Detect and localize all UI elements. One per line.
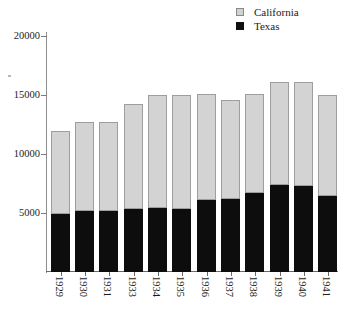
- bar-group[interactable]: [245, 36, 264, 272]
- bar-segment-california[interactable]: [124, 104, 143, 209]
- x-axis-tick: [304, 272, 305, 276]
- y-axis-tick-label: 20000: [0, 30, 40, 41]
- stacked-bar-chart: California Texas 5000100001500020000 192…: [0, 0, 360, 312]
- x-axis-tick: [182, 272, 183, 276]
- x-axis-tick: [207, 272, 208, 276]
- bar-segment-california[interactable]: [245, 94, 264, 193]
- legend-item-texas: Texas: [236, 19, 356, 32]
- bar-segment-california[interactable]: [318, 95, 337, 196]
- x-axis-tick: [85, 272, 86, 276]
- x-axis-tick-label: 1940: [297, 276, 308, 312]
- bar-segment-california[interactable]: [51, 131, 70, 214]
- bar-group[interactable]: [75, 36, 94, 272]
- bar-segment-texas[interactable]: [172, 209, 191, 272]
- x-axis-tick: [280, 272, 281, 276]
- bar-group[interactable]: [172, 36, 191, 272]
- x-axis-tick: [231, 272, 232, 276]
- bar-group[interactable]: [51, 36, 70, 272]
- bar-segment-california[interactable]: [270, 82, 289, 185]
- bar-segment-california[interactable]: [197, 94, 216, 200]
- x-axis-tick-label: 1936: [200, 276, 211, 312]
- bar-group[interactable]: [318, 36, 337, 272]
- bar-segment-texas[interactable]: [197, 200, 216, 272]
- bar-segment-texas[interactable]: [318, 196, 337, 272]
- california-swatch-icon: [236, 8, 244, 16]
- bar-segment-california[interactable]: [99, 122, 118, 211]
- legend-label-texas: Texas: [254, 20, 280, 32]
- x-axis-tick-label: 1939: [273, 276, 284, 312]
- bar-group[interactable]: [294, 36, 313, 272]
- bar-group[interactable]: [99, 36, 118, 272]
- bar-segment-texas[interactable]: [124, 209, 143, 272]
- bar-segment-california[interactable]: [148, 95, 167, 208]
- x-axis-tick: [109, 272, 110, 276]
- x-axis-tick-label: 1934: [151, 276, 162, 312]
- y-axis-tick-label: 15000: [0, 89, 40, 100]
- x-axis-tick: [328, 272, 329, 276]
- x-axis-tick: [158, 272, 159, 276]
- chart-legend: California Texas: [236, 5, 356, 33]
- bar-segment-texas[interactable]: [51, 214, 70, 272]
- y-axis-tick-label: 10000: [0, 148, 40, 159]
- bar-group[interactable]: [270, 36, 289, 272]
- y-axis-tick-label: 5000: [0, 207, 40, 218]
- bar-segment-texas[interactable]: [148, 208, 167, 272]
- x-axis-tick-label: 1938: [248, 276, 259, 312]
- x-axis-tick-label: 1930: [78, 276, 89, 312]
- x-axis-tick: [61, 272, 62, 276]
- x-axis-tick-label: 1935: [175, 276, 186, 312]
- bar-segment-california[interactable]: [75, 122, 94, 211]
- bar-segment-texas[interactable]: [270, 185, 289, 272]
- x-axis-tick-label: 1933: [127, 276, 138, 312]
- bar-group[interactable]: [197, 36, 216, 272]
- x-axis-labels: 1929193019311933193419351936193719381939…: [46, 272, 338, 312]
- x-axis-tick-label: 1931: [102, 276, 113, 312]
- x-axis-tick: [255, 272, 256, 276]
- bar-group[interactable]: [148, 36, 167, 272]
- bar-segment-california[interactable]: [294, 82, 313, 186]
- x-axis-tick-label: 1941: [321, 276, 332, 312]
- bar-segment-texas[interactable]: [75, 211, 94, 272]
- plot-area: [46, 36, 338, 272]
- x-axis-tick-label: 1937: [224, 276, 235, 312]
- texas-swatch-icon: [236, 22, 244, 30]
- bar-segment-texas[interactable]: [221, 199, 240, 272]
- x-axis-tick: [134, 272, 135, 276]
- legend-item-california: California: [236, 5, 356, 18]
- x-axis-tick-label: 1929: [54, 276, 65, 312]
- bar-segment-california[interactable]: [172, 95, 191, 209]
- bar-segment-texas[interactable]: [294, 186, 313, 272]
- legend-label-california: California: [254, 6, 299, 18]
- y-axis-labels: 5000100001500020000: [0, 0, 40, 312]
- bar-group[interactable]: [221, 36, 240, 272]
- bar-segment-texas[interactable]: [245, 193, 264, 272]
- bar-group[interactable]: [124, 36, 143, 272]
- bar-segment-texas[interactable]: [99, 211, 118, 272]
- bar-segment-california[interactable]: [221, 100, 240, 199]
